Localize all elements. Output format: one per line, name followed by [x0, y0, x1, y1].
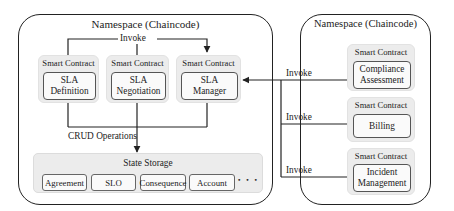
- smart-contract-sla-negotiation: Smart Contract SLA Negotiation: [106, 55, 169, 103]
- contract-name-line2: Definition: [50, 86, 88, 97]
- invoke-label-compliance: Invoke: [286, 68, 312, 78]
- contract-name-line1: SLA: [201, 75, 219, 86]
- invoke-label-billing: Invoke: [286, 112, 312, 122]
- smart-contract-compliance-assessment: Smart Contract Compliance Assessment: [347, 44, 415, 91]
- contract-name-line2: Manager: [193, 86, 226, 97]
- sla-manager-box: SLA Manager: [181, 72, 238, 100]
- invoke-label-top: Invoke: [120, 33, 146, 43]
- smart-contract-billing: Smart Contract Billing: [347, 97, 415, 142]
- contract-name-line1: Billing: [369, 121, 395, 132]
- smart-contract-label: Smart Contract: [348, 47, 414, 57]
- smart-contract-sla-manager: Smart Contract SLA Manager: [176, 55, 241, 103]
- sla-definition-box: SLA Definition: [43, 72, 96, 100]
- storage-item-agreement: Agreement: [42, 174, 87, 191]
- contract-name-line2: Negotiation: [117, 86, 161, 97]
- incident-management-box: Incident Management: [353, 164, 411, 192]
- smart-contract-label: Smart Contract: [39, 58, 98, 68]
- billing-box: Billing: [353, 114, 411, 138]
- contract-name-line2: Assessment: [360, 75, 404, 86]
- contract-name-line1: Compliance: [360, 64, 405, 75]
- smart-contract-label: Smart Contract: [177, 58, 240, 68]
- more-items-ellipsis: • • •: [238, 176, 259, 184]
- smart-contract-label: Smart Contract: [348, 151, 414, 161]
- contract-name-line1: SLA: [61, 75, 79, 86]
- state-storage-title: State Storage: [34, 158, 262, 168]
- contract-name-line1: Incident: [367, 167, 397, 178]
- sla-negotiation-box: SLA Negotiation: [111, 72, 166, 100]
- smart-contract-label: Smart Contract: [107, 58, 168, 68]
- storage-item-slo: SLO: [91, 174, 136, 191]
- invoke-label-incident: Invoke: [286, 165, 312, 175]
- contract-name-line2: Management: [358, 178, 407, 189]
- smart-contract-incident-management: Smart Contract Incident Management: [347, 148, 415, 195]
- storage-item-consequence: Consequence: [140, 174, 186, 191]
- crud-operations-label: CRUD Operations: [68, 131, 137, 141]
- left-namespace-title: Namespace (Chaincode): [18, 18, 273, 30]
- compliance-assessment-box: Compliance Assessment: [353, 61, 411, 89]
- smart-contract-label: Smart Contract: [348, 100, 414, 110]
- storage-item-account: Account: [189, 174, 235, 191]
- smart-contract-sla-definition: Smart Contract SLA Definition: [38, 55, 99, 103]
- right-namespace-title: Namespace (Chaincode): [300, 18, 431, 29]
- contract-name-line1: SLA: [130, 75, 148, 86]
